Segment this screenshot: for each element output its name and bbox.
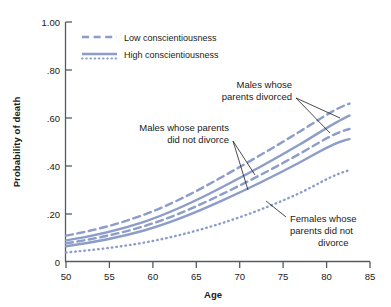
y-tick-label-0: 0 — [55, 257, 60, 268]
y-tick-label-1.00: 1.00 — [42, 17, 61, 28]
y-tick-label-.40: .40 — [47, 161, 60, 172]
annotation-females-not-divorced-line1: Females whose — [290, 213, 357, 224]
probability-of-death-line-chart: 1.00 .80 .60 .40 .20 0 50 55 60 65 70 75… — [0, 0, 391, 307]
y-tick-label-.20: .20 — [47, 209, 60, 220]
x-tick-label-75: 75 — [278, 271, 289, 282]
x-tick-label-60: 60 — [148, 271, 159, 282]
annotation-males-not-divorced-line1: Males whose parents — [139, 122, 229, 133]
chart-figure: 1.00 .80 .60 .40 .20 0 50 55 60 65 70 75… — [0, 0, 391, 307]
annotation-females-not-divorced-line3: divorce — [318, 237, 349, 248]
y-tick-label-.80: .80 — [47, 65, 60, 76]
y-axis-label: Probability of death — [11, 97, 22, 188]
x-tick-label-65: 65 — [191, 271, 202, 282]
x-tick-label-70: 70 — [234, 271, 245, 282]
legend-label-high-conscientiousness: High conscientiousness — [124, 50, 219, 60]
x-tick-label-50: 50 — [61, 271, 72, 282]
annotation-females-not-divorced-line2: parents did not — [290, 225, 353, 236]
annotation-males-not-divorced-line2: did not divorce — [167, 134, 229, 145]
legend-label-low-conscientiousness: Low conscientiousness — [124, 33, 217, 43]
y-tick-label-.60: .60 — [47, 113, 60, 124]
x-tick-label-85: 85 — [365, 271, 376, 282]
annotation-males-divorced-line2: parents divorced — [222, 91, 292, 102]
x-axis-label: Age — [204, 289, 222, 300]
x-tick-label-80: 80 — [321, 271, 332, 282]
x-tick-label-55: 55 — [104, 271, 115, 282]
annotation-males-divorced-line1: Males whose — [237, 79, 292, 90]
